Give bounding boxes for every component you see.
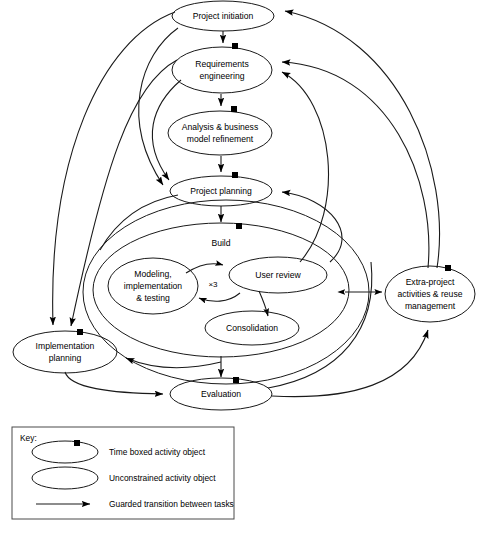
timebox-marker-requirements: [232, 43, 238, 49]
node-modeling-implementation-testing[interactable]: Modeling, implementation & testing: [108, 258, 198, 314]
analysis-label-line1: Analysis & business: [182, 122, 258, 132]
build-container-ellipse: [83, 200, 369, 384]
key-entry-unconstrained: Unconstrained activity object: [32, 467, 216, 489]
build-iteration-multiplicity-label: ×3: [208, 280, 218, 289]
edge-build-to-implementation-planning: [126, 358, 221, 368]
edge-evaluation-to-extra-project: [272, 330, 428, 397]
extra-project-label-line1: Extra-project: [406, 277, 455, 287]
node-layer: Project initiation Requirements engineer…: [13, 1, 475, 410]
key-timeboxed-ellipse-icon: [32, 441, 98, 463]
modeling-label-line1: Modeling,: [134, 269, 171, 279]
edge-extra-project-to-initiation: [285, 11, 440, 268]
key-timebox-marker-icon: [74, 440, 80, 446]
node-user-review[interactable]: User review: [229, 257, 327, 293]
node-extra-project-activities[interactable]: Extra-project activities & reuse managem…: [385, 265, 475, 322]
key-entry-unconstrained-label: Unconstrained activity object: [109, 473, 216, 483]
edge-evaluation-outer-return: [268, 262, 372, 388]
extra-project-label-line3: management: [405, 301, 456, 311]
node-project-initiation[interactable]: Project initiation: [172, 1, 274, 31]
edge-build-to-planning: [282, 192, 342, 262]
timebox-marker-project-planning: [232, 172, 238, 178]
edge-user-review-to-modeling: [199, 293, 240, 301]
key-plain-ellipse-icon: [32, 467, 98, 489]
edge-build-wrap-left: [100, 195, 178, 250]
evaluation-label: Evaluation: [201, 389, 241, 399]
key-title: Key:: [20, 433, 37, 443]
key-legend: Key: Time boxed activity object Unconstr…: [12, 427, 234, 519]
modeling-label-line2: implementation: [124, 281, 182, 291]
implementation-planning-shape[interactable]: [13, 331, 117, 373]
analysis-label-line2: model refinement: [187, 134, 254, 144]
timebox-marker-implementation-planning: [77, 329, 83, 335]
node-requirements-engineering[interactable]: Requirements engineering: [172, 43, 272, 93]
analysis-shape[interactable]: [168, 111, 272, 155]
requirements-engineering-shape[interactable]: [172, 47, 272, 93]
node-consolidation[interactable]: Consolidation: [205, 311, 299, 345]
extra-project-label-line2: activities & reuse: [398, 289, 463, 299]
node-analysis-business-model[interactable]: Analysis & business model refinement: [168, 106, 272, 155]
timebox-marker-extra-project: [445, 265, 451, 271]
requirements-engineering-label-line1: Requirements: [195, 59, 249, 69]
modeling-label-line3: & testing: [136, 293, 170, 303]
key-entry-timeboxed: Time boxed activity object: [32, 440, 206, 463]
timebox-marker-evaluation: [233, 377, 239, 383]
project-initiation-label: Project initiation: [193, 11, 254, 21]
node-project-planning[interactable]: Project planning: [170, 172, 272, 206]
process-diagram: Project initiation Requirements engineer…: [0, 0, 486, 541]
build-label: Build: [211, 238, 230, 248]
user-review-label: User review: [255, 270, 301, 280]
edge-extra-project-to-requirements: [282, 62, 429, 268]
consolidation-label: Consolidation: [226, 323, 278, 333]
implementation-planning-label-line1: Implementation: [36, 341, 95, 351]
implementation-planning-label-line2: planning: [49, 353, 82, 363]
edge-implementation-planning-to-evaluation: [65, 372, 163, 394]
timebox-marker-analysis: [231, 106, 237, 112]
project-planning-label: Project planning: [190, 186, 252, 196]
edge-requirements-to-planning: [152, 80, 181, 180]
requirements-engineering-label-line2: engineering: [200, 71, 245, 81]
key-entry-timeboxed-label: Time boxed activity object: [109, 447, 206, 457]
key-entry-transition: Guarded transition between tasks: [36, 499, 234, 509]
node-implementation-planning[interactable]: Implementation planning: [13, 329, 117, 373]
key-entry-transition-label: Guarded transition between tasks: [109, 499, 234, 509]
timebox-marker-build: [236, 223, 242, 229]
